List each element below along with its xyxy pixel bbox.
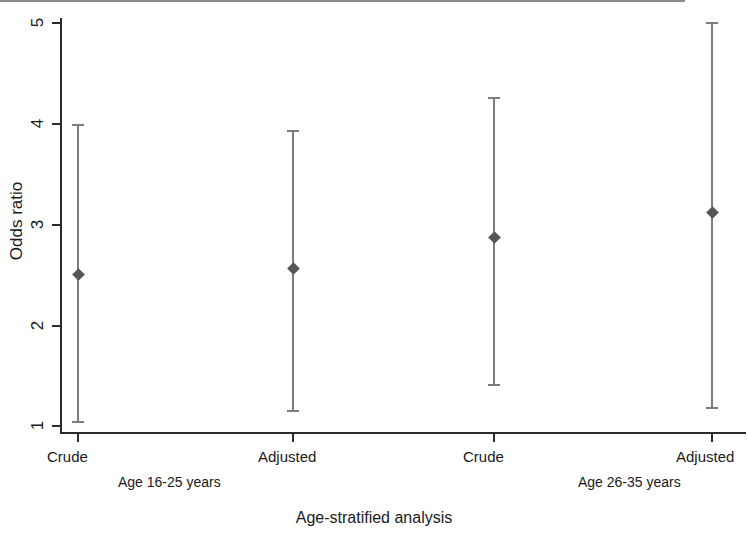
plot-area: 1 2 3 4 5 Crude Adjusted Crude Adjusted …	[0, 0, 748, 536]
y-tick-label-4: 4	[29, 113, 46, 135]
y-tick-label-2: 2	[29, 315, 46, 337]
x-axis-title: Age-stratified analysis	[0, 508, 748, 527]
point-marker-2	[287, 262, 300, 275]
point-marker-3	[488, 231, 501, 244]
x-tick-adjusted-16-25	[292, 433, 294, 442]
y-axis-title: Odds ratio	[8, 161, 26, 281]
group-label-age-26-35: Age 26-35 years	[578, 474, 681, 491]
errorbar-cap-lower-1	[72, 421, 84, 423]
errorbar-cap-lower-2	[287, 410, 299, 412]
x-tick-adjusted-26-35	[711, 433, 713, 442]
point-marker-4	[706, 206, 719, 219]
y-tick-label-3: 3	[29, 214, 46, 236]
y-tick-3	[52, 224, 60, 226]
x-tick-label-adjusted-26-35: Adjusted	[676, 448, 734, 466]
point-marker-1	[72, 268, 85, 281]
x-tick-crude-16-25	[77, 433, 79, 442]
y-tick-5	[52, 22, 60, 24]
x-tick-label-crude-16-25: Crude	[47, 448, 88, 466]
x-axis-line	[60, 432, 746, 434]
errorbar-cap-upper-1	[72, 124, 84, 126]
y-tick-2	[52, 325, 60, 327]
x-tick-label-adjusted-16-25: Adjusted	[258, 448, 316, 466]
x-tick-label-crude-26-35: Crude	[463, 448, 504, 466]
y-axis-line	[60, 18, 62, 434]
errorbar-cap-lower-4	[706, 407, 718, 409]
errorbar-cap-upper-3	[488, 97, 500, 99]
y-tick-4	[52, 123, 60, 125]
y-tick-label-5: 5	[29, 12, 46, 34]
errorbar-cap-lower-3	[488, 384, 500, 386]
forest-plot-figure: 1 2 3 4 5 Crude Adjusted Crude Adjusted …	[0, 0, 748, 536]
group-label-age-16-25: Age 16-25 years	[118, 474, 221, 491]
reference-line-at-one	[0, 0, 685, 2]
errorbar-cap-upper-4	[706, 22, 718, 24]
y-tick-1	[52, 425, 60, 427]
errorbar-cap-upper-2	[287, 130, 299, 132]
x-tick-crude-26-35	[493, 433, 495, 442]
y-tick-label-1: 1	[29, 415, 46, 437]
